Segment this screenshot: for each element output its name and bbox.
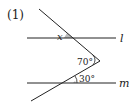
- geometry-diagram: (1) x 70° 30° l m: [0, 0, 139, 107]
- angle-x-label: x: [57, 31, 63, 42]
- angle-70-label: 70°: [77, 57, 93, 67]
- transversal-upper: [39, 9, 100, 61]
- line-l-label: l: [120, 32, 124, 45]
- line-m-label: m: [119, 77, 129, 90]
- angle-30-label: 30°: [79, 74, 95, 84]
- problem-label: (1): [7, 8, 24, 22]
